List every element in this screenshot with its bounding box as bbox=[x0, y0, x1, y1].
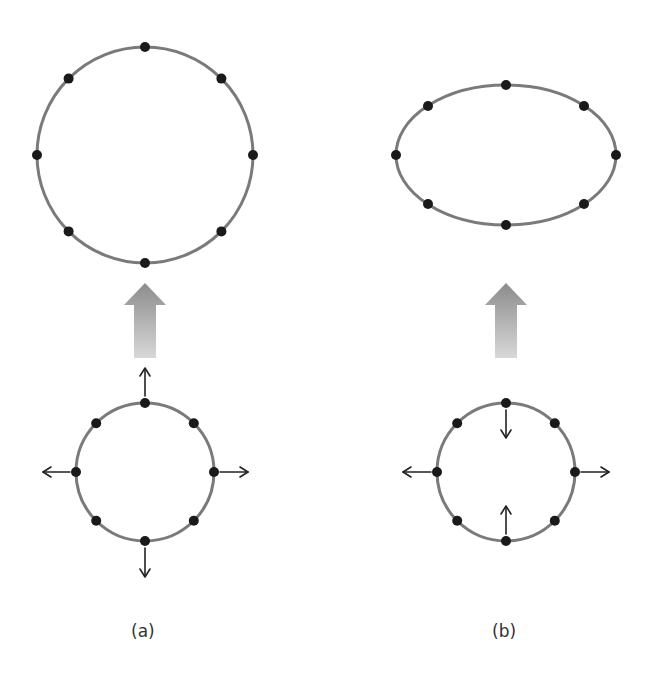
particle-dot bbox=[64, 226, 74, 236]
particle-dot bbox=[71, 467, 81, 477]
particle-dot bbox=[501, 536, 511, 546]
particle-dot bbox=[611, 150, 621, 160]
arrow-up-icon bbox=[140, 368, 150, 396]
particle-dot bbox=[209, 467, 219, 477]
particle-dot bbox=[216, 226, 226, 236]
particle-dot bbox=[140, 42, 150, 52]
panel-a-initial-circle bbox=[71, 398, 219, 546]
particle-dot bbox=[501, 80, 511, 90]
particle-dot bbox=[91, 418, 101, 428]
particle-dot bbox=[140, 398, 150, 408]
particle-dot bbox=[140, 258, 150, 268]
panel-a-label: (a) bbox=[131, 621, 155, 641]
arrow-left-icon bbox=[403, 467, 431, 477]
particle-dot bbox=[140, 536, 150, 546]
arrow-right-icon bbox=[220, 467, 248, 477]
arrow-right-icon bbox=[581, 467, 609, 477]
transition-arrow-up-icon bbox=[485, 283, 527, 358]
panel-a: (a) bbox=[32, 42, 258, 641]
arrow-down-icon bbox=[140, 548, 150, 577]
particle-dot bbox=[91, 516, 101, 526]
arrow-down-inward-icon bbox=[501, 410, 511, 438]
particle-dot bbox=[550, 516, 560, 526]
panel-a-final-circle bbox=[32, 42, 258, 268]
panel-b: (b) bbox=[391, 80, 621, 641]
particle-dot bbox=[452, 516, 462, 526]
arrow-up-inward-icon bbox=[501, 506, 511, 534]
particle-dot bbox=[579, 199, 589, 209]
transition-arrow-up-icon bbox=[124, 283, 166, 358]
particle-dot bbox=[216, 74, 226, 84]
panel-b-final-ellipse bbox=[391, 80, 621, 230]
particle-dot bbox=[501, 398, 511, 408]
panel-b-label: (b) bbox=[492, 621, 516, 641]
diagram-canvas: (a) bbox=[0, 0, 656, 676]
arrow-left-icon bbox=[43, 467, 70, 477]
particle-dot bbox=[391, 150, 401, 160]
particle-dot bbox=[423, 101, 433, 111]
particle-dot bbox=[189, 516, 199, 526]
particle-dot bbox=[550, 418, 560, 428]
particle-dot bbox=[432, 467, 442, 477]
particle-dot bbox=[579, 101, 589, 111]
particle-dot bbox=[248, 150, 258, 160]
particle-dot bbox=[64, 74, 74, 84]
particle-dot bbox=[423, 199, 433, 209]
particle-dot bbox=[452, 418, 462, 428]
particle-dot bbox=[189, 418, 199, 428]
particle-dot bbox=[570, 467, 580, 477]
particle-dot bbox=[501, 220, 511, 230]
particle-dot bbox=[32, 150, 42, 160]
